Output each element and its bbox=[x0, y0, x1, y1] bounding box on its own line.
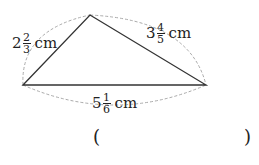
side-label-left: 2 2 3 cm bbox=[12, 32, 57, 55]
side-label-right: 3 4 5 cm bbox=[146, 22, 191, 45]
fraction: 2 3 bbox=[23, 32, 31, 55]
answer-close-paren: ) bbox=[244, 126, 251, 147]
fraction: 1 6 bbox=[103, 92, 111, 115]
fraction: 4 5 bbox=[157, 22, 165, 45]
triangle-diagram bbox=[0, 0, 259, 165]
answer-open-paren: ( bbox=[93, 126, 100, 147]
side-label-bottom: 5 1 6 cm bbox=[92, 92, 137, 115]
